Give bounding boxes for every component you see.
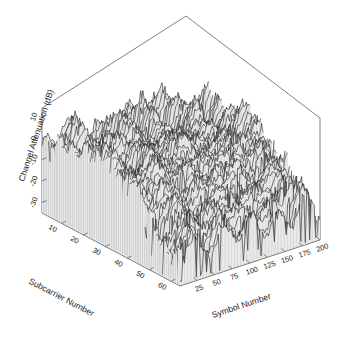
surface-plot-3d: 100-10-20-30 102030405060 25507510012515… <box>0 0 342 346</box>
figure-root: 100-10-20-30 102030405060 25507510012515… <box>0 0 342 346</box>
